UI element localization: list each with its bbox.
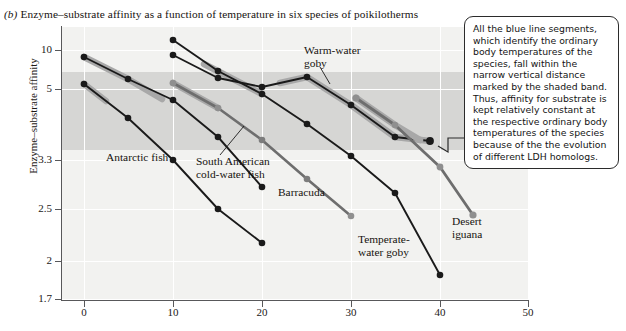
- series-label-temperate-water-goby: Temperate- water goby: [358, 233, 410, 259]
- x-tick-label-20: 20: [242, 306, 282, 318]
- y-tick-label-2.5: 2.5: [12, 202, 52, 214]
- x-axis-line: [61, 300, 529, 301]
- series-label-desert-iguana: Desert iguana: [452, 215, 482, 241]
- data-point: [392, 190, 399, 197]
- y-tick-5: [55, 89, 62, 90]
- y-tick-1.7: [55, 299, 62, 300]
- data-point: [437, 272, 444, 279]
- data-point: [170, 80, 177, 87]
- series-label-warm-water-goby: Warm-water goby: [304, 44, 361, 70]
- x-tick-label-10: 10: [153, 306, 193, 318]
- data-point: [348, 102, 355, 109]
- data-point: [348, 153, 355, 160]
- series-label-line-1: Temperate-: [358, 233, 410, 246]
- data-point: [437, 164, 444, 171]
- data-point: [170, 37, 177, 44]
- series-label-barracuda: Barracuda: [278, 186, 325, 199]
- series-label-antarctic-fish: Antarctic fish: [106, 151, 168, 164]
- figure-panel-b: (b) Enzyme–substrate affinity as a funct…: [0, 0, 626, 331]
- y-tick-3.3: [55, 160, 62, 161]
- data-point: [304, 176, 311, 183]
- y-axis-title: Enzyme–substrate affinity: [27, 31, 39, 201]
- series-label-line-1: Desert: [452, 215, 482, 228]
- y-tick-2.5: [55, 209, 62, 210]
- data-point: [352, 94, 359, 101]
- series-label-line-1: Warm-water: [304, 44, 361, 57]
- data-point: [170, 97, 177, 104]
- data-point: [259, 240, 266, 247]
- data-point: [215, 134, 222, 141]
- data-point: [259, 137, 266, 144]
- caption-text: Enzyme–substrate affinity as a function …: [20, 8, 418, 20]
- series-label-line-2: goby: [304, 57, 361, 70]
- leader-line-south-american: [220, 126, 244, 155]
- panel-label: (b): [4, 8, 17, 20]
- data-point: [81, 54, 88, 61]
- y-tick-2: [55, 261, 62, 262]
- data-point: [392, 134, 399, 141]
- data-point: [215, 75, 222, 82]
- data-point: [304, 74, 311, 81]
- series-label-line-2: cold-water fish: [196, 168, 270, 181]
- y-tick-label-2: 2: [12, 254, 52, 266]
- callout-box: All the blue line segments, which identi…: [464, 16, 619, 169]
- y-tick-label-1.7: 1.7: [12, 292, 52, 304]
- series-label-line-2: iguana: [452, 228, 482, 241]
- data-point: [170, 157, 177, 164]
- x-tick-label-30: 30: [331, 306, 371, 318]
- data-point: [348, 213, 355, 220]
- data-point: [259, 184, 266, 191]
- callout-text: All the blue line segments, which identi…: [473, 23, 607, 162]
- series-label-line-2: water goby: [358, 246, 410, 259]
- data-point: [392, 122, 398, 128]
- x-tick-label-50: 50: [508, 306, 548, 318]
- data-point: [125, 76, 132, 83]
- data-point: [259, 91, 266, 98]
- series-label-south-american-cold-water-fish: South American cold-water fish: [196, 155, 270, 181]
- data-point: [304, 121, 311, 128]
- data-point: [125, 115, 132, 122]
- data-point: [215, 68, 222, 75]
- callout-pointer: [436, 136, 466, 158]
- data-point: [215, 206, 222, 213]
- data-point: [81, 81, 88, 88]
- y-axis-line: [61, 26, 62, 301]
- x-tick-label-40: 40: [420, 306, 460, 318]
- data-point: [170, 52, 177, 59]
- x-tick-label-0: 0: [64, 306, 104, 318]
- data-point: [426, 137, 434, 145]
- data-point: [259, 84, 266, 91]
- data-point: [215, 105, 222, 112]
- y-tick-10: [55, 50, 62, 51]
- series-label-line-1: South American: [196, 155, 270, 168]
